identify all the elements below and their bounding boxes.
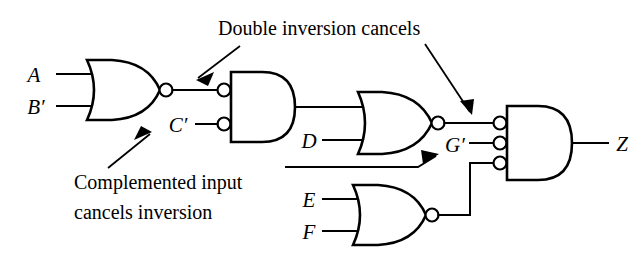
- arrow-shaft-3: [108, 134, 150, 168]
- nor-ef-output-bubble: [426, 209, 439, 222]
- nor-d-gate-body: [358, 92, 432, 154]
- label-signal-b-prime: B′: [27, 95, 45, 119]
- and-input-bubble-2: [218, 118, 231, 131]
- label-signal-g-prime: G′: [445, 133, 465, 157]
- nor-d-output-bubble: [432, 117, 445, 130]
- gate-nor-d: [323, 92, 445, 154]
- circuit-diagram-page: A B′ C′ D E F G′ Z Double inversion canc…: [0, 0, 641, 255]
- label-signal-a: A: [26, 63, 41, 87]
- final-and-input-bubble-1: [494, 117, 507, 130]
- nor-ef-gate-body: [353, 185, 426, 245]
- nor-output-bubble: [160, 84, 173, 97]
- final-and-input-bubble-2: [494, 137, 507, 150]
- gate-and-inverted: [196, 72, 295, 142]
- gate-nor-ab: [57, 60, 173, 120]
- final-and-input-bubble-3: [494, 157, 507, 170]
- annotation-double-inversion: Double inversion cancels: [218, 17, 420, 39]
- gate-nor-ef: [323, 185, 439, 245]
- label-signal-f: F: [302, 220, 316, 244]
- and-gate-body: [231, 72, 295, 142]
- label-signal-c-prime: C′: [169, 113, 188, 137]
- annotation-arrow-double-right: [425, 44, 474, 115]
- circuit-canvas: A B′ C′ D E F G′ Z Double inversion canc…: [0, 0, 641, 255]
- arrow-head-1: [196, 72, 214, 86]
- wire-norefef-to-and3: [439, 163, 495, 215]
- arrow-head-2: [460, 99, 474, 115]
- and-input-bubble-1: [218, 84, 231, 97]
- label-signal-d: D: [300, 129, 316, 153]
- annotation-complemented-line1: Complemented input: [74, 171, 243, 194]
- arrow-shaft-4: [285, 156, 436, 167]
- annotation-complemented-line2: cancels inversion: [74, 201, 212, 223]
- final-and-gate-body: [507, 106, 572, 180]
- arrow-head-4: [421, 150, 439, 164]
- nor-gate-body: [87, 60, 160, 120]
- gate-and-final: [494, 106, 609, 180]
- arrow-head-3: [134, 126, 152, 140]
- label-signal-e: E: [302, 188, 316, 212]
- label-signal-z: Z: [616, 132, 628, 156]
- annotation-arrow-complemented-left: [108, 126, 152, 168]
